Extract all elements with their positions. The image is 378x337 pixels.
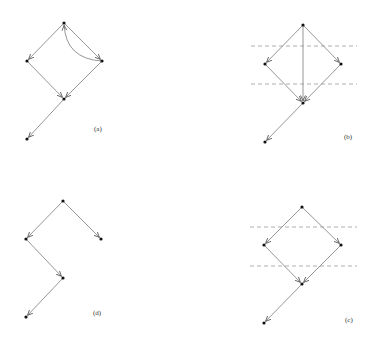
directed-edge [266, 207, 302, 243]
directed-edge [267, 103, 303, 140]
directed-edge [304, 245, 341, 282]
directed-edge [305, 64, 341, 101]
directed-edge [29, 23, 64, 59]
graph-node [339, 62, 342, 65]
panel-b: (b) [251, 23, 357, 143]
graph-node [300, 282, 303, 285]
directed-edge [28, 201, 63, 237]
graph-node [25, 137, 28, 140]
directed-edge [303, 25, 339, 62]
directed-edge [266, 284, 302, 321]
graph-node [300, 205, 303, 208]
directed-edge [28, 278, 63, 315]
directed-edge [28, 99, 64, 137]
graph-node [61, 199, 64, 202]
graph-node [263, 62, 266, 65]
directed-edge [27, 61, 62, 97]
graph-node [100, 59, 103, 62]
graph-node [24, 237, 27, 240]
directed-edge [64, 23, 100, 59]
graph-node [301, 23, 304, 26]
graph-node [99, 237, 102, 240]
panel-label-c: (c) [345, 316, 353, 324]
directed-edge [264, 245, 300, 282]
panel-label-d: (d) [93, 309, 102, 317]
directed-edge [265, 64, 301, 101]
panel-label-b: (b) [344, 133, 353, 141]
directed-edge [63, 201, 99, 237]
graph-node [263, 140, 266, 143]
graph-node [24, 315, 27, 318]
graph-node [339, 243, 342, 246]
graph-node [62, 21, 65, 24]
panel-a: (a) [25, 21, 103, 140]
graph-node [25, 59, 28, 62]
directed-edge [267, 25, 303, 62]
graph-node [301, 101, 304, 104]
figure-canvas: (a) (b) (c) (d) [0, 0, 378, 337]
graph-node [62, 97, 65, 100]
panel-d: (d) [24, 199, 102, 318]
graph-node [61, 276, 64, 279]
panel-label-a: (a) [94, 125, 102, 133]
graph-node [262, 321, 265, 324]
graph-node [262, 243, 265, 246]
directed-edge [66, 61, 102, 97]
panel-c: (c) [250, 205, 357, 324]
directed-edge [26, 239, 61, 276]
directed-edge [302, 207, 339, 243]
